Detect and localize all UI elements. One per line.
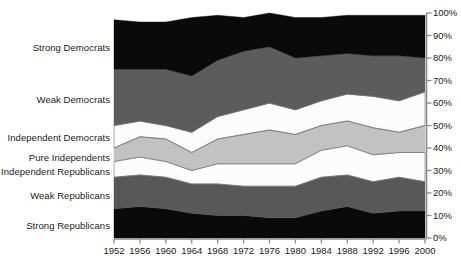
x-axis-tick-label: 2000: [411, 246, 439, 256]
y-axis-tick-label: 10%: [433, 211, 452, 221]
x-axis-tick-label: 1968: [204, 246, 232, 256]
x-axis-tick-label: 1956: [126, 246, 154, 256]
category-label: Strong Democrats: [33, 43, 110, 53]
x-axis-tick-label: 1976: [256, 246, 284, 256]
category-label: Weak Democrats: [37, 95, 110, 105]
x-axis-tick-label: 1964: [178, 246, 206, 256]
x-axis-tick-label: 1992: [359, 246, 387, 256]
stacked-areas: [114, 13, 425, 238]
x-axis-tick-label: 1980: [281, 246, 309, 256]
x-axis-tick-label: 1972: [230, 246, 258, 256]
category-label: Independent Democrats: [8, 133, 110, 143]
category-label: Independent Republicans: [1, 167, 110, 177]
y-axis-tick-label: 0%: [433, 233, 447, 243]
category-label: Pure Independents: [29, 153, 110, 163]
y-axis-tick-label: 90%: [433, 31, 452, 41]
category-label: Weak Republicans: [30, 191, 110, 201]
y-axis-tick-label: 70%: [433, 76, 452, 86]
y-axis-tick-label: 20%: [433, 188, 452, 198]
x-axis-tick-label: 1952: [100, 246, 128, 256]
y-axis-tick-label: 40%: [433, 143, 452, 153]
category-label: Strong Republicans: [26, 221, 110, 231]
x-axis-tick-label: 1960: [152, 246, 180, 256]
y-axis-tick-label: 60%: [433, 98, 452, 108]
x-axis-tick-label: 1988: [333, 246, 361, 256]
stacked-area-chart: Strong DemocratsWeak DemocratsIndependen…: [0, 0, 461, 258]
y-axis-tick-label: 100%: [433, 8, 457, 18]
x-axis-tick-label: 1996: [385, 246, 413, 256]
y-axis-tick-label: 50%: [433, 121, 452, 131]
y-axis-tick-label: 80%: [433, 53, 452, 63]
x-axis-tick-label: 1984: [307, 246, 335, 256]
y-axis-tick-label: 30%: [433, 166, 452, 176]
